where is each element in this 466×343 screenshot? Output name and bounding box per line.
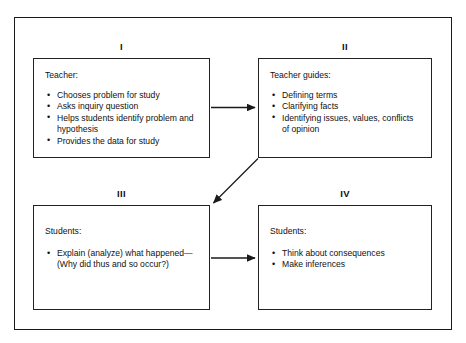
list-item: Defining terms — [270, 90, 422, 101]
box-iii-list: Explain (analyze) what happened—(Why did… — [45, 248, 200, 271]
list-item: Clarifying facts — [270, 101, 422, 112]
list-item: Provides the data for study — [45, 136, 200, 147]
list-item: Think about consequences — [270, 248, 422, 259]
quadrant-label-ii: II — [258, 41, 432, 52]
list-item: Identifying issues, values, conflicts of… — [270, 113, 422, 136]
box-ii-list: Defining terms Clarifying facts Identify… — [270, 90, 422, 136]
list-item: Chooses problem for study — [45, 90, 200, 101]
list-item: Explain (analyze) what happened—(Why did… — [45, 248, 200, 271]
box-ii-heading: Teacher guides: — [270, 70, 422, 81]
box-iii-heading: Students: — [45, 226, 200, 237]
box-iv-heading: Students: — [270, 226, 422, 237]
quadrant-box-iv: Students: Think about consequences Make … — [258, 205, 432, 310]
list-item: Helps students identify problem and hypo… — [45, 113, 200, 136]
quadrant-label-iv: IV — [258, 188, 432, 199]
diagram-canvas: I II III IV Teacher: Chooses problem for… — [0, 0, 466, 343]
box-i-list: Chooses problem for study Asks inquiry q… — [45, 90, 200, 147]
box-i-heading: Teacher: — [45, 70, 200, 81]
quadrant-label-i: I — [33, 41, 210, 52]
quadrant-label-iii: III — [33, 188, 210, 199]
quadrant-box-i: Teacher: Chooses problem for study Asks … — [33, 58, 210, 158]
box-iv-list: Think about consequences Make inferences — [270, 248, 422, 271]
list-item: Asks inquiry question — [45, 101, 200, 112]
list-item: Make inferences — [270, 259, 422, 270]
quadrant-box-iii: Students: Explain (analyze) what happene… — [33, 205, 210, 310]
quadrant-box-ii: Teacher guides: Defining terms Clarifyin… — [258, 58, 432, 158]
